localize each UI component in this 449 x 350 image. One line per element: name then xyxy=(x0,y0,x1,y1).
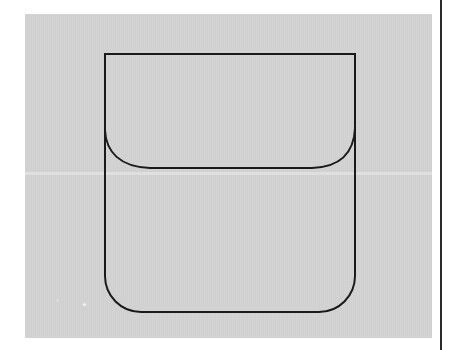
container-outline-path xyxy=(105,54,355,312)
right-margin-rule xyxy=(440,0,442,350)
inner-bowed-curve-path xyxy=(105,128,355,168)
figure-drawing xyxy=(0,0,449,350)
page-canvas xyxy=(0,0,449,350)
